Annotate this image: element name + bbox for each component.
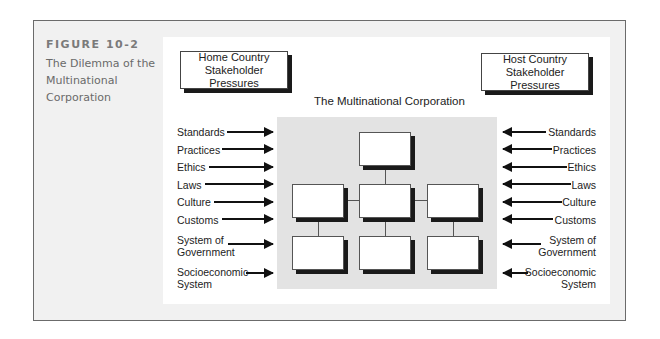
- right-arrow-icon: [222, 218, 273, 220]
- org-box-bottom-left: [292, 236, 344, 270]
- left-arrow-icon: [503, 243, 541, 245]
- label-line: Government: [538, 246, 596, 258]
- right-pressure-socioeconomic-system: SocioeconomicSystem: [525, 266, 596, 290]
- figure-number: FIGURE 10-2: [46, 38, 156, 51]
- right-pressure-customs: Customs: [555, 214, 596, 226]
- right-pressure-practices: Practices: [553, 144, 596, 156]
- label-line: System: [177, 278, 248, 290]
- figure-title: The Dilemma of the Multinational Corpora…: [46, 55, 156, 106]
- home-box-line: Stakeholder Pressures: [181, 64, 287, 90]
- left-pressure-customs: Customs: [177, 214, 218, 226]
- label-line: Socioeconomic: [525, 266, 596, 278]
- left-arrow-icon: [503, 218, 553, 220]
- figure-title-line: Corporation: [46, 89, 156, 106]
- figure-caption: FIGURE 10-2 The Dilemma of the Multinati…: [46, 38, 156, 106]
- left-arrow-icon: [503, 183, 571, 185]
- right-arrow-icon: [209, 166, 273, 168]
- org-box-bottom-center: [359, 236, 411, 270]
- right-arrow-icon: [214, 201, 273, 203]
- label-line: Socioeconomic: [177, 266, 248, 278]
- connector: [348, 200, 359, 201]
- left-pressure-laws: Laws: [177, 179, 202, 191]
- right-arrow-icon: [246, 272, 273, 274]
- home-country-box: Home CountryStakeholder Pressures: [180, 51, 288, 89]
- left-arrow-icon: [503, 166, 567, 168]
- left-arrow-icon: [503, 201, 562, 203]
- home-box-line: Home Country: [181, 51, 287, 64]
- right-arrow-icon: [205, 183, 273, 185]
- label-line: System: [525, 278, 596, 290]
- org-box-top: [359, 132, 411, 166]
- label-line: System of: [538, 234, 596, 246]
- org-box-mid-center: [359, 184, 411, 218]
- org-box-mid-left: [292, 184, 344, 218]
- org-box-bottom-right: [427, 236, 479, 270]
- figure-title-line: The Dilemma of the: [46, 55, 156, 72]
- connector: [453, 222, 454, 236]
- host-box-line: Stakeholder Pressures: [482, 66, 588, 92]
- org-box-mid-right: [427, 184, 479, 218]
- left-pressure-practices: Practices: [177, 144, 220, 156]
- right-arrow-icon: [228, 243, 273, 245]
- multinational-corporation-title: The Multinational Corporation: [314, 95, 465, 107]
- label-line: System of: [177, 234, 235, 246]
- left-pressure-culture: Culture: [177, 196, 211, 208]
- right-arrow-icon: [227, 131, 273, 133]
- connector: [385, 170, 386, 184]
- connector: [415, 200, 427, 201]
- connector: [318, 222, 319, 236]
- left-arrow-icon: [503, 131, 546, 133]
- host-country-box: Host CountryStakeholder Pressures: [481, 53, 589, 91]
- figure-title-line: Multinational: [46, 72, 156, 89]
- right-arrow-icon: [222, 148, 273, 150]
- right-pressure-system-of-government: System ofGovernment: [538, 234, 596, 258]
- right-pressure-ethics: Ethics: [567, 161, 596, 173]
- right-pressure-culture: Culture: [562, 196, 596, 208]
- right-pressure-standards: Standards: [548, 126, 596, 138]
- left-arrow-icon: [503, 272, 528, 274]
- left-arrow-icon: [503, 148, 552, 150]
- connector: [385, 222, 386, 236]
- right-pressure-laws: Laws: [571, 179, 596, 191]
- left-pressure-socioeconomic-system: SocioeconomicSystem: [177, 266, 248, 290]
- host-box-line: Host Country: [482, 53, 588, 66]
- label-line: Government: [177, 246, 235, 258]
- left-pressure-system-of-government: System ofGovernment: [177, 234, 235, 258]
- left-pressure-standards: Standards: [177, 126, 225, 138]
- left-pressure-ethics: Ethics: [177, 161, 206, 173]
